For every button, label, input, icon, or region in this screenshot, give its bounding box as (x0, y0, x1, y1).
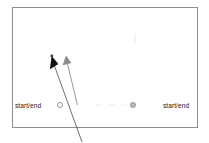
faint-tick (135, 34, 137, 43)
right-start-end-marker (130, 102, 135, 107)
faint-dash-3 (121, 104, 126, 105)
left-start-end-label: start/end (15, 102, 41, 109)
gray-arrow (63, 56, 78, 106)
gray-arrow-shaft (67, 63, 77, 106)
black-arrow-head (50, 56, 59, 69)
gray-arrow-head (63, 56, 72, 66)
black-arrow-tip-accent (51, 55, 53, 57)
faint-dash-1 (96, 104, 102, 105)
faint-marks-group (96, 34, 136, 106)
diagram-figure: start/end start/end (0, 0, 209, 143)
black-arrow-shaft (54, 64, 82, 143)
left-start-end-marker (58, 103, 63, 108)
faint-dash-2 (109, 104, 115, 105)
diagram-overlay (0, 0, 209, 143)
right-start-end-label: start/end (163, 102, 189, 109)
black-arrow (50, 55, 82, 142)
